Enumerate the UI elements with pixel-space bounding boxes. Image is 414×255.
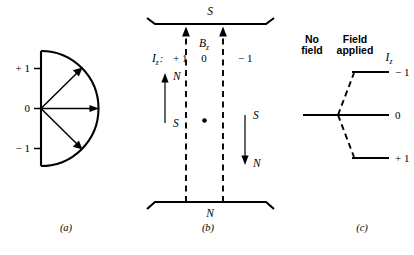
panel-c-axis-symbol: Iz [385, 51, 393, 66]
panel-c-caption: (c) [356, 222, 368, 234]
panel-b-caption: (b) [202, 222, 215, 234]
panel-a-caption: (a) [60, 222, 73, 234]
panel-c-label-minus1: − 1 [395, 66, 409, 78]
panel-b-left-dipole-south-label: S [173, 117, 179, 129]
panel-b-top-pole-label: S [207, 5, 213, 17]
panel-b-right-dipole-south-label: S [253, 109, 259, 121]
panel-b-field-symbol: Bz [199, 37, 209, 52]
panel-b-field-symbol-subscript: z [205, 43, 209, 52]
panel-a-label-zero: 0 [25, 102, 31, 114]
panel-c-header-nofield-line2: field [301, 44, 323, 56]
panel-b-right-dipole-north-label: N [252, 157, 262, 169]
panel-a-label-plus1: + 1 [16, 62, 30, 74]
figure-container: + 1 0 − 1 S N Iz: + 1 Bz 0 − 1 N S S N N… [0, 0, 414, 255]
panel-c-label-zero: 0 [395, 109, 401, 121]
panel-c-header-field-line2: applied [337, 44, 374, 56]
panel-b-quantum-symbol-subscript: z [155, 58, 159, 67]
panel-b-bottom-pole-label: N [205, 207, 215, 219]
panel-b-quantum-colon: : [160, 52, 164, 64]
figure-text-layer: + 1 0 − 1 S N Iz: + 1 Bz 0 − 1 N S S N N… [0, 0, 414, 255]
panel-b-state-minus1: − 1 [238, 52, 252, 64]
panel-b-state-zero: 0 [201, 52, 207, 64]
panel-a-label-minus1: − 1 [16, 142, 30, 154]
panel-c-axis-symbol-subscript: z [388, 57, 392, 66]
panel-b-left-dipole-north-label: N [172, 70, 182, 82]
panel-b-state-plus1: + 1 [173, 52, 187, 64]
panel-b-quantum-symbol: Iz: [151, 52, 163, 67]
panel-c-label-plus1: + 1 [395, 152, 409, 164]
panel-b-field-symbol-letter: B [199, 37, 206, 49]
